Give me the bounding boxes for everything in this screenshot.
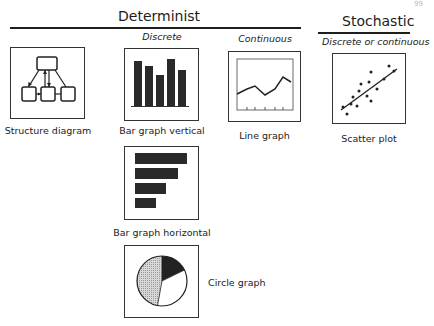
line-graph-card — [228, 51, 301, 122]
bar-graph-vertical-label: Bar graph vertical — [112, 125, 212, 136]
line-graph-label: Line graph — [228, 130, 301, 141]
scatter-plot-card — [332, 53, 406, 124]
determinist-rule — [10, 27, 301, 29]
structure-diagram-card — [10, 47, 85, 119]
bar-graph-vertical-icon — [125, 49, 197, 119]
continuous-subheading: Continuous — [230, 33, 300, 44]
stochastic-heading: Stochastic — [342, 13, 414, 29]
discrete-subheading: Discrete — [136, 31, 188, 42]
bar-graph-horizontal-card — [124, 146, 199, 220]
bar-graph-horizontal-label: Bar graph horizontal — [108, 227, 216, 238]
determinist-heading: Determinist — [118, 8, 200, 24]
structure-diagram-icon — [11, 48, 83, 117]
circle-graph-card — [124, 245, 199, 318]
bar-graph-horizontal-icon — [125, 147, 197, 218]
page-number: 99 — [414, 0, 423, 8]
stochastic-rule — [318, 32, 410, 34]
bar-graph-vertical-card — [124, 48, 199, 121]
structure-diagram-label: Structure diagram — [0, 125, 96, 136]
discrete-or-continuous-subheading: Discrete or continuous — [322, 36, 422, 47]
scatter-plot-label: Scatter plot — [332, 133, 406, 144]
circle-graph-icon — [125, 246, 197, 316]
line-graph-icon — [229, 52, 299, 120]
scatter-plot-icon — [333, 54, 404, 122]
circle-graph-label: Circle graph — [208, 277, 266, 288]
